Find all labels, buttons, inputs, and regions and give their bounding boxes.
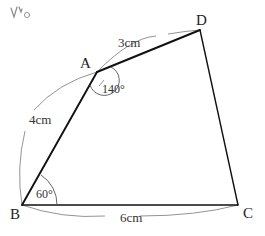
segment-ad [97,30,200,72]
measure-label-bc: 6cm [120,211,142,224]
angle-label-b: 60° [36,188,53,200]
handwritten-mark-icon [11,7,30,18]
measure-label-ab: 4cm [29,113,51,126]
vertex-label-b: B [10,207,20,222]
measure-arc-ab-lower [20,131,25,205]
measure-arc-bc-right [140,205,238,216]
angle-label-a: 140° [102,83,125,95]
measure-arc-bc-left [22,205,105,217]
segment-dc [200,30,238,205]
segment-ba [22,72,97,205]
vertex-label-d: D [196,13,207,28]
diagram-canvas: A B C D 3cm 4cm 6cm 140° 60° [0,0,265,236]
vertex-label-c: C [243,206,253,221]
measure-label-ad: 3cm [118,36,140,49]
measure-arc-ab-upper [34,72,97,110]
vertex-label-a: A [80,56,91,71]
